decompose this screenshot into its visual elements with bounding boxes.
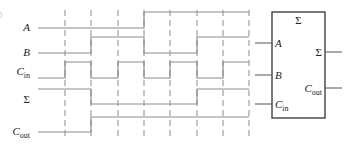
signal-label-b: B xyxy=(23,46,30,58)
input-pin-label: A xyxy=(274,37,282,49)
input-pin-label: B xyxy=(275,69,282,81)
signal-label-cout: Cout xyxy=(12,125,30,140)
output-pin-label: Σ xyxy=(316,46,322,58)
waveform-cin xyxy=(38,62,249,78)
waveform-b xyxy=(38,37,249,53)
signal-label-cin: Cin xyxy=(16,65,30,80)
figure-corner-fragment xyxy=(0,12,2,18)
clock-edge-dashed-lines xyxy=(65,10,249,138)
waveform-a xyxy=(38,12,249,28)
full-adder-timing-diagram: ABCinΣCout ΣABCinΣCout xyxy=(0,0,349,145)
adder-title-sigma: Σ xyxy=(295,14,301,26)
signal-label-a: A xyxy=(22,21,30,33)
signal-label-sum: Σ xyxy=(24,93,30,105)
full-adder-block: ΣABCinΣCout xyxy=(255,12,342,118)
signal-labels: ABCinΣCout xyxy=(12,21,30,140)
